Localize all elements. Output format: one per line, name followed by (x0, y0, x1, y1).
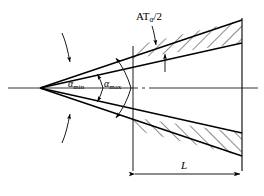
angle-arc-alpha-min-lower (98, 88, 104, 102)
angle-arc-alpha-max-lower (116, 88, 131, 118)
label-angle-max: αmax (104, 79, 121, 91)
label-angle-min: αmin (68, 79, 84, 91)
cone-tolerance-diagram (0, 0, 264, 196)
leader-arrow-upper-left (62, 33, 70, 62)
line-alpha-max-lower (40, 88, 242, 156)
label-tolerance: ATα/2 (136, 11, 162, 24)
leader-arrow-lower-left (62, 114, 70, 143)
label-tolerance-base: AT (136, 10, 149, 22)
label-angle-max-subscript: max (109, 83, 121, 91)
label-tolerance-suffix: /2 (153, 10, 162, 22)
label-angle-min-subscript: min (73, 83, 84, 91)
angle-arc-alpha-min-upper (98, 75, 104, 89)
label-length: L (181, 160, 187, 171)
